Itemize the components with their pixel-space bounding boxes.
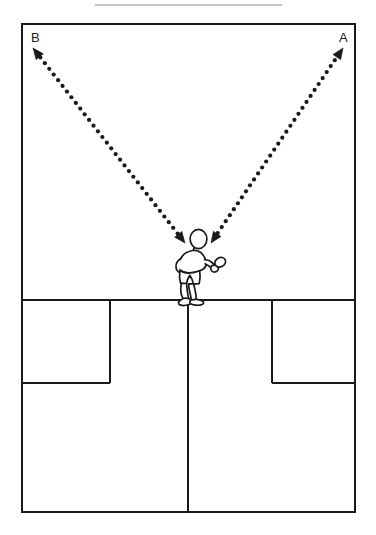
player-front-shoe — [190, 299, 204, 305]
player-torso — [179, 250, 207, 272]
corner-label-b: B — [31, 30, 40, 45]
arrow-dot — [140, 186, 144, 190]
arrow-dot — [96, 129, 100, 133]
arrow-dot — [292, 118, 296, 122]
arrow-dot — [167, 220, 171, 224]
player-front-leg — [189, 284, 197, 301]
arrow-dot — [158, 209, 162, 213]
arrow-dot — [47, 67, 51, 71]
arrow-dot — [91, 124, 95, 128]
arrow-dot — [296, 112, 300, 116]
arrow-dot — [220, 225, 224, 229]
arrow-dot — [325, 70, 329, 74]
arrow-dot — [127, 169, 131, 173]
dotted-arrow-to-a — [211, 48, 343, 243]
arrow-dot — [268, 153, 272, 157]
arrow-dot — [312, 88, 316, 92]
arrow-dot — [43, 61, 47, 65]
arrow-dot — [300, 106, 304, 110]
arrow-dot — [83, 112, 87, 116]
arrow-dot — [232, 207, 236, 211]
arrow-dot — [69, 95, 73, 99]
arrow-dot — [280, 136, 284, 140]
corner-label-a: A — [339, 30, 348, 45]
arrow-dot — [284, 130, 288, 134]
arrow-dot — [56, 78, 60, 82]
arrow-dot — [317, 82, 321, 86]
arrow-dot — [240, 195, 244, 199]
diagram-canvas: B A — [0, 0, 376, 535]
arrow-dot — [105, 141, 109, 145]
player-head — [190, 229, 207, 248]
arrow-head — [333, 48, 343, 60]
arrow-dot — [252, 177, 256, 181]
arrow-dot — [224, 219, 228, 223]
arrow-dot — [153, 203, 157, 207]
arrow-dot — [304, 100, 308, 104]
arrow-dot — [321, 76, 325, 80]
arrow-dot — [329, 64, 333, 68]
arrow-dot — [162, 214, 166, 218]
arrow-dot — [100, 135, 104, 139]
arrow-dot — [333, 58, 337, 62]
arrow-dot — [114, 152, 118, 156]
arrow-dot — [260, 165, 264, 169]
arrow-dot — [78, 107, 82, 111]
arrow-dot — [288, 124, 292, 128]
court-diagram-svg: B A — [0, 0, 376, 535]
arrow-dot — [256, 171, 260, 175]
arrow-dot — [136, 180, 140, 184]
arrow-dot — [131, 175, 135, 179]
arrow-dot — [308, 94, 312, 98]
arrow-dot — [145, 192, 149, 196]
arrow-dot — [60, 84, 64, 88]
arrow-dot — [272, 147, 276, 151]
dotted-arrow-to-b — [33, 48, 185, 243]
arrow-dot — [87, 118, 91, 122]
arrow-dot — [149, 197, 153, 201]
arrow-dot — [244, 189, 248, 193]
arrow-dot — [118, 158, 122, 162]
arrow-dot — [74, 101, 78, 105]
arrow-dot — [171, 226, 175, 230]
arrow-dot — [109, 146, 113, 150]
arrow-dot — [236, 201, 240, 205]
arrow-dot — [122, 163, 126, 167]
arrow-dot — [264, 159, 268, 163]
arrow-dot — [228, 213, 232, 217]
arrow-dot — [248, 183, 252, 187]
arrow-dot — [276, 142, 280, 146]
arrow-dot — [65, 89, 69, 93]
arrow-dot — [52, 72, 56, 76]
